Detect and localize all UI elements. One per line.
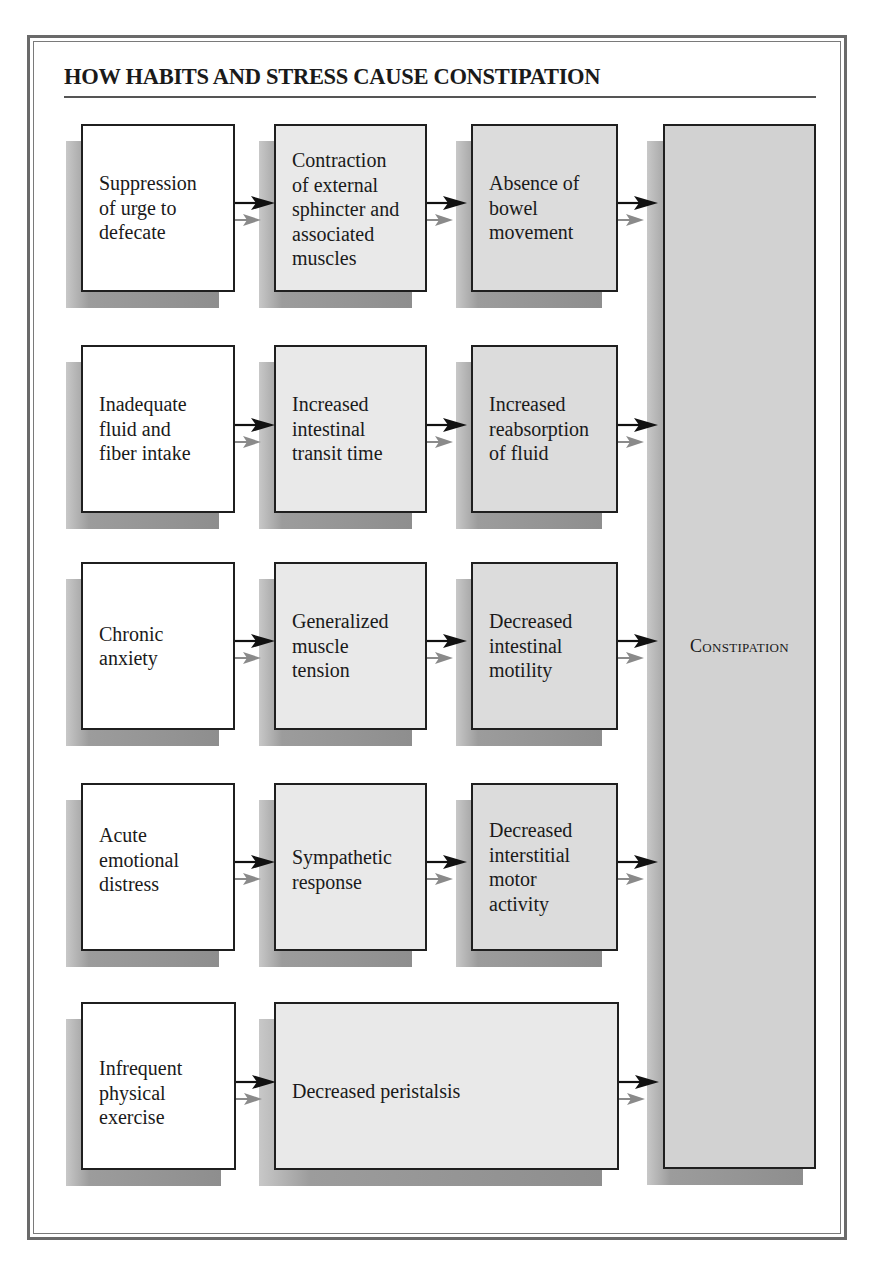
cause-label: Inadequate fluid and fiber intake [99, 392, 191, 466]
arrow-icon [235, 633, 279, 673]
arrow-icon [427, 854, 471, 894]
cause-box-emotional-distress: Acute emotional distress [81, 783, 235, 951]
step-box-decreased-peristalsis: Decreased peristalsis [274, 1002, 619, 1170]
step-box-intestinal-motility: Decreased intestinal motility [471, 562, 618, 730]
arrow-icon [618, 633, 662, 673]
step-box-sphincter-contraction: Contraction of external sphincter and as… [274, 124, 427, 292]
step-box-transit-time: Increased intestinal transit time [274, 345, 427, 513]
arrow-icon [236, 1074, 280, 1114]
arrow-icon [618, 417, 662, 457]
step-label: Generalized muscle tension [292, 609, 389, 683]
cause-box-suppression: Suppression of urge to defecate [81, 124, 235, 292]
cause-label: Infrequent physical exercise [99, 1056, 182, 1130]
cause-box-chronic-anxiety: Chronic anxiety [81, 562, 235, 730]
cause-box-inadequate-intake: Inadequate fluid and fiber intake [81, 345, 235, 513]
diagram-title: HOW HABITS AND STRESS CAUSE CONSTIPATION [64, 64, 600, 90]
step-label: Increased intestinal transit time [292, 392, 383, 466]
title-rule [64, 96, 816, 98]
step-label: Decreased interstitial motor activity [489, 818, 572, 916]
outcome-box-constipation: Constipation [663, 124, 816, 1169]
step-box-muscle-tension: Generalized muscle tension [274, 562, 427, 730]
step-label: Sympathetic response [292, 845, 392, 894]
cause-label: Suppression of urge to defecate [99, 171, 197, 245]
cause-label: Acute emotional distress [99, 823, 179, 897]
arrow-icon [427, 195, 471, 235]
arrow-icon [427, 633, 471, 673]
arrow-icon [235, 854, 279, 894]
arrow-icon [618, 854, 662, 894]
outcome-label: Constipation [690, 634, 789, 659]
step-label: Increased reabsorption of fluid [489, 392, 589, 466]
arrow-icon [235, 417, 279, 457]
cause-label: Chronic anxiety [99, 622, 163, 671]
step-box-sympathetic-response: Sympathetic response [274, 783, 427, 951]
step-box-absence-bowel-movement: Absence of bowel movement [471, 124, 618, 292]
step-label: Decreased intestinal motility [489, 609, 572, 683]
arrow-icon [618, 195, 662, 235]
arrow-icon [619, 1074, 663, 1114]
arrow-icon [427, 417, 471, 457]
step-label: Absence of bowel movement [489, 171, 580, 245]
step-box-fluid-reabsorption: Increased reabsorption of fluid [471, 345, 618, 513]
arrow-icon [235, 195, 279, 235]
step-label: Contraction of external sphincter and as… [292, 148, 399, 271]
cause-box-infrequent-exercise: Infrequent physical exercise [81, 1002, 236, 1170]
step-label: Decreased peristalsis [292, 1079, 460, 1104]
step-box-motor-activity: Decreased interstitial motor activity [471, 783, 618, 951]
